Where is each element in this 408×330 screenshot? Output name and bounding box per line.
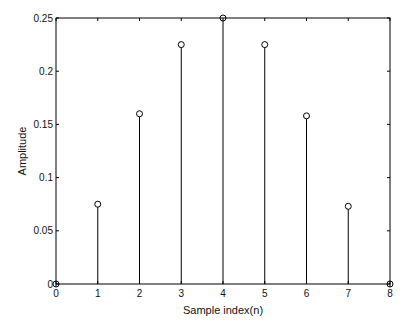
y-tick-label: 0.05 — [34, 225, 54, 236]
x-tick-label: 0 — [53, 288, 59, 299]
x-tick-label: 8 — [387, 288, 393, 299]
x-axis-label: Sample index(n) — [183, 304, 263, 316]
stem-chart: 012345678 00.050.10.150.20.25 Sample ind… — [0, 0, 408, 330]
y-tick-label: 0.1 — [39, 172, 53, 183]
y-tick-label: 0.25 — [34, 13, 54, 24]
x-tick-label: 3 — [178, 288, 184, 299]
x-tick-label: 6 — [304, 288, 310, 299]
x-tick-label: 7 — [345, 288, 351, 299]
y-tick-label: 0.15 — [34, 119, 54, 130]
y-tick-label: 0.2 — [39, 66, 53, 77]
x-tick-label: 5 — [262, 288, 268, 299]
y-tick-label: 0 — [47, 279, 53, 290]
y-axis-label: Amplitude — [16, 127, 28, 176]
x-tick-label: 2 — [137, 288, 143, 299]
x-tick-label: 1 — [95, 288, 101, 299]
x-tick-label: 4 — [220, 288, 226, 299]
